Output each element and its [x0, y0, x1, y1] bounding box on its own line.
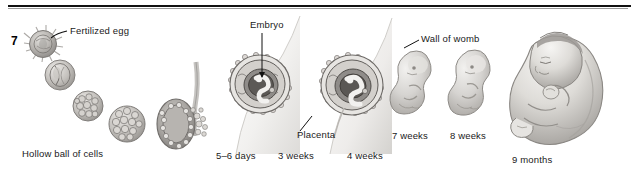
- label-fertilized-egg: Fertilized egg: [70, 25, 129, 36]
- page-marker: 7: [11, 34, 18, 48]
- stage-baby-9-months: [510, 32, 603, 144]
- stage-blastocyst: [109, 106, 145, 142]
- stage-fetus-7-weeks: [390, 51, 431, 114]
- label-5-6-days: 5–6 days: [216, 150, 256, 161]
- label-wall-of-womb: Wall of womb: [421, 33, 479, 44]
- stage-two-cell: [45, 60, 75, 90]
- label-hollow-ball-of-cells: Hollow ball of cells: [22, 148, 103, 159]
- label-4-weeks: 4 weeks: [347, 150, 383, 161]
- label-8-weeks: 8 weeks: [450, 130, 486, 141]
- label-placenta: Placenta: [297, 129, 335, 140]
- label-3-weeks: 3 weeks: [278, 150, 314, 161]
- label-7-weeks: 7 weeks: [392, 130, 428, 141]
- stage-morula: [73, 91, 103, 121]
- label-9-months: 9 months: [512, 154, 552, 165]
- label-embryo: Embryo: [250, 19, 284, 30]
- stage-fetus-8-weeks: [448, 50, 490, 115]
- stage-implanting-blastocyst: [157, 62, 208, 149]
- leader-wall-of-womb: [404, 40, 419, 48]
- stage-fertilized-egg: [24, 25, 63, 62]
- development-figure: 7 Fertilized egg Hollow ball of cells 5–…: [0, 0, 631, 182]
